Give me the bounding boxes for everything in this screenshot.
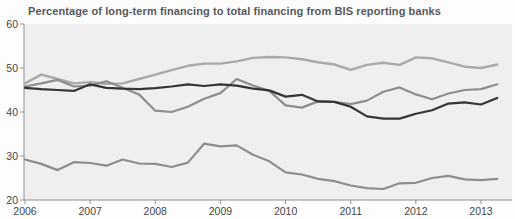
line-chart-figure: Percentage of long-term financing to tot… bbox=[0, 0, 515, 219]
x-tick-label: 2006 bbox=[13, 205, 37, 217]
x-tick-label: 2007 bbox=[78, 205, 102, 217]
y-tick-label: 60 bbox=[6, 18, 18, 30]
x-tick-label: 2009 bbox=[209, 205, 233, 217]
y-tick-label: 20 bbox=[6, 194, 18, 206]
plot-area bbox=[24, 24, 512, 200]
y-tick-label: 40 bbox=[6, 106, 18, 118]
x-tick-label: 2008 bbox=[144, 205, 168, 217]
x-tick-label: 2010 bbox=[274, 205, 298, 217]
x-tick-label: 2012 bbox=[404, 205, 428, 217]
y-tick-label: 50 bbox=[6, 62, 18, 74]
x-tick-label: 2011 bbox=[339, 205, 362, 217]
y-tick-label: 30 bbox=[6, 150, 18, 162]
x-tick-label: 2013 bbox=[469, 205, 493, 217]
chart-canvas: 2030405060200620072008200920102011201220… bbox=[0, 0, 515, 219]
